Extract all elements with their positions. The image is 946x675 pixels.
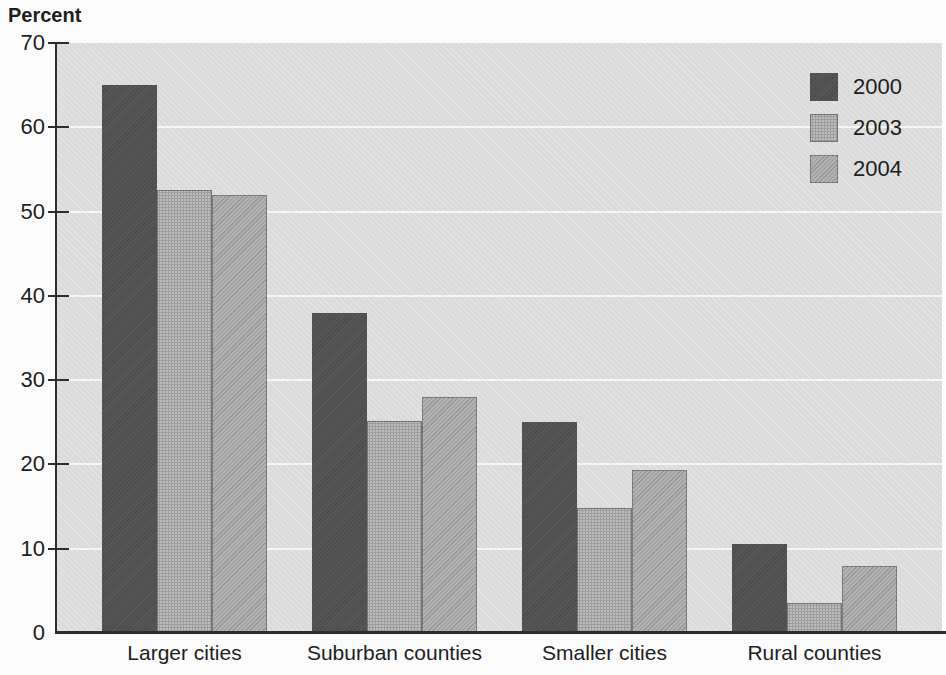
y-tick-label-70: 70 [0,32,45,54]
bar-2000-rural-counties [732,544,787,633]
x-category-label-smaller-cities: Smaller cities [500,641,710,665]
y-tick-20 [48,463,69,465]
bar-2004-suburban-counties [422,397,477,633]
y-tick-label-20: 20 [0,453,45,475]
legend-swatch-2004 [810,155,838,183]
y-axis-title: Percent [8,4,81,27]
bar-2003-suburban-counties [367,421,422,633]
legend-item-2004: 2004 [810,155,902,183]
y-tick-50 [48,211,69,213]
legend-swatch-2000 [810,73,838,101]
legend-swatch-2003 [810,114,838,142]
legend-label-2000: 2000 [853,73,902,101]
bar-2004-larger-cities [212,195,267,633]
y-tick-label-10: 10 [0,538,45,560]
y-axis-line [55,43,57,633]
legend-label-2004: 2004 [853,155,902,183]
legend-item-2003: 2003 [810,114,902,142]
y-tick-label-50: 50 [0,201,45,223]
x-category-label-rural-counties: Rural counties [710,641,920,665]
bar-2003-smaller-cities [577,508,632,633]
legend-label-2003: 2003 [853,114,902,142]
x-axis-line [55,631,946,634]
y-tick-label-0: 0 [0,622,45,644]
y-tick-60 [48,126,69,128]
y-tick-label-60: 60 [0,116,45,138]
bar-2004-rural-counties [842,566,897,633]
bar-chart-figure: Percent 706050403020100 Larger citiesSub… [0,0,946,675]
bar-2003-rural-counties [787,603,842,633]
bar-2000-larger-cities [102,85,157,633]
y-tick-40 [48,295,69,297]
legend-item-2000: 2000 [810,73,902,101]
y-tick-label-30: 30 [0,369,45,391]
bar-2000-suburban-counties [312,313,367,633]
bar-2003-larger-cities [157,190,212,633]
bar-2000-smaller-cities [522,422,577,633]
y-tick-70 [48,42,69,44]
bar-2004-smaller-cities [632,470,687,633]
y-tick-10 [48,548,69,550]
y-tick-label-40: 40 [0,285,45,307]
y-tick-30 [48,379,69,381]
x-category-label-suburban-counties: Suburban counties [290,641,500,665]
x-category-label-larger-cities: Larger cities [80,641,290,665]
legend: 200020032004 [810,73,902,183]
